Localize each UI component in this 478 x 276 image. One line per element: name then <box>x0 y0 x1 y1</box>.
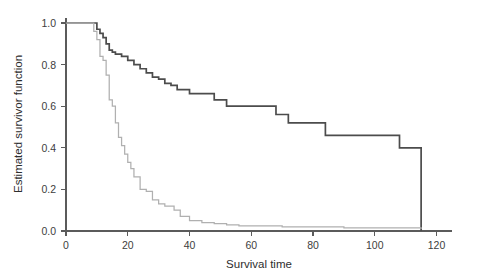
x-tick-label: 100 <box>366 239 384 251</box>
x-tick-label: 120 <box>428 239 446 251</box>
x-tick-label: 80 <box>307 239 319 251</box>
survival-curve-group-1-solid <box>66 23 421 231</box>
y-tick-label: 0.4 <box>41 142 56 154</box>
y-tick-label: 0.6 <box>41 100 56 112</box>
x-axis-title: Survival time <box>226 258 292 270</box>
y-tick-label: 1.0 <box>41 17 56 29</box>
y-tick-label: 0.0 <box>41 225 56 237</box>
x-axis-ticks: 020406080100120 <box>63 231 445 251</box>
x-tick-label: 40 <box>184 239 196 251</box>
survival-plot-svg: 0.00.20.40.60.81.0 020406080100120 Survi… <box>0 0 478 276</box>
x-tick-label: 0 <box>63 239 69 251</box>
data-curves <box>66 23 421 231</box>
x-tick-label: 20 <box>122 239 134 251</box>
y-tick-label: 0.2 <box>41 183 56 195</box>
x-tick-label: 60 <box>245 239 257 251</box>
survival-chart-figure: 0.00.20.40.60.81.0 020406080100120 Survi… <box>0 0 478 276</box>
y-axis-title: Estimated survivor function <box>12 55 24 193</box>
y-axis-ticks: 0.00.20.40.60.81.0 <box>41 17 66 237</box>
y-tick-label: 0.8 <box>41 59 56 71</box>
